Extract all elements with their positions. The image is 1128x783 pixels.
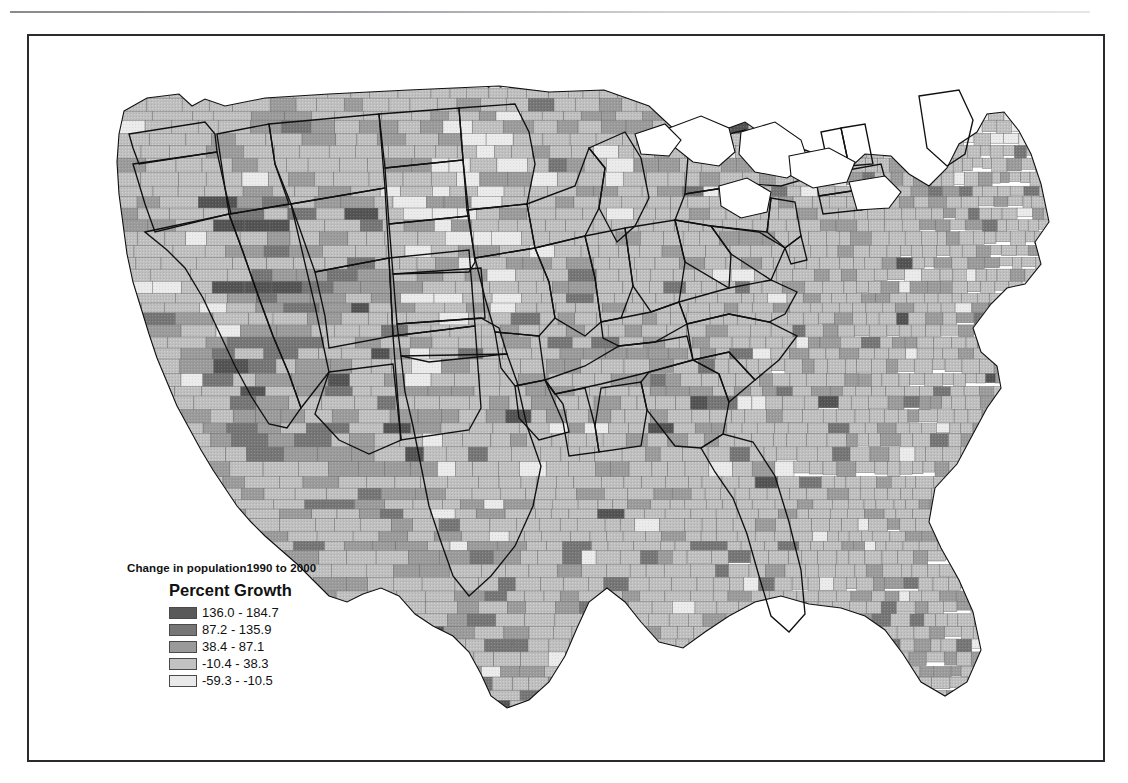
county-polygon [777,447,798,460]
county-polygon [968,281,981,292]
county-polygon [950,423,961,434]
county-polygon [737,396,752,411]
county-polygon [912,462,923,474]
county-polygon [753,220,769,232]
county-polygon [850,447,870,463]
county-polygon [908,410,919,422]
county-polygon [672,577,697,592]
county-polygon [579,396,594,411]
county-polygon [885,577,904,588]
county-polygon [986,374,996,383]
county-polygon [926,652,945,662]
county-polygon [849,550,865,565]
county-polygon [546,462,568,478]
county-polygon [794,462,810,473]
county-polygon [899,281,910,293]
county-polygon [1017,245,1029,255]
county-polygon [870,447,889,464]
county-polygon [955,208,968,221]
county-polygon [996,232,1010,242]
county-polygon [968,145,981,158]
county-polygon [1033,208,1044,221]
county-polygon [934,257,952,268]
county-polygon [924,614,936,628]
county-polygon [991,133,1004,143]
county-polygon [913,257,925,268]
county-polygon [881,281,899,294]
legend-label: -10.4 - 38.3 [202,656,269,671]
county-polygon [547,359,565,375]
county-polygon [1002,245,1017,255]
county-polygon [875,462,888,474]
county-polygon [979,172,992,186]
county-polygon [1021,172,1030,183]
county-polygon [623,172,646,188]
county-polygon [888,519,900,530]
county-polygon [992,208,1002,220]
legend-label: 38.4 - 87.1 [202,639,264,654]
county-polygon [772,374,790,387]
county-polygon [1013,257,1022,270]
county-polygon [898,359,915,372]
county-polygon [909,652,926,666]
county-polygon [904,577,918,589]
legend-label: 136.0 - 184.7 [202,605,279,620]
county-polygon [990,245,1001,254]
county-polygon [958,348,973,359]
county-polygon [888,396,904,410]
county-polygon [1004,133,1019,143]
legend-row: -10.4 - 38.3 [169,655,387,672]
county-polygon [857,281,869,292]
county-polygon [887,325,899,336]
county-polygon [664,564,690,578]
county-polygon [937,245,950,255]
county-polygon [687,550,712,563]
county-polygon [836,220,857,233]
county-polygon [942,172,954,187]
county-polygon [900,639,914,651]
county-polygon [917,337,934,349]
county-polygon [887,359,898,374]
county-polygon [905,232,921,246]
map-frame: Equal-interval classification [27,34,1105,762]
county-polygon [722,477,739,490]
county-polygon [821,220,836,231]
county-polygon [1019,220,1029,231]
county-polygon [855,564,867,578]
county-polygon [978,197,994,206]
county-polygon [1007,158,1022,171]
county-polygon [868,396,888,409]
county-polygon [957,652,972,666]
county-polygon [857,433,868,445]
county-polygon [842,269,857,281]
county-polygon [931,639,941,652]
county-polygon [818,396,838,408]
county-polygon [512,447,541,463]
county-polygon [922,245,936,259]
county-polygon [979,208,991,221]
county-polygon [901,245,912,255]
county-polygon [857,359,872,372]
county-polygon [902,220,920,233]
legend-row: 38.4 - 87.1 [169,638,387,655]
county-polygon [870,245,887,257]
county-polygon [936,423,949,433]
county-polygon [890,531,906,542]
county-polygon [923,462,935,472]
county-polygon [876,293,890,304]
county-polygon [858,519,868,531]
county-polygon [881,433,901,446]
county-polygon [964,386,980,395]
county-polygon [1001,172,1009,183]
county-polygon [966,220,983,230]
county-polygon [739,232,762,246]
county-polygon [898,550,914,565]
county-polygon [930,433,948,449]
county-polygon [958,614,975,628]
county-polygon [1026,232,1035,242]
county-polygon [984,257,999,267]
county-polygon [837,550,849,565]
county-polygon [976,374,985,383]
legend-label: 87.2 - 135.9 [202,622,271,637]
legend-row: 136.0 - 184.7 [169,604,387,621]
